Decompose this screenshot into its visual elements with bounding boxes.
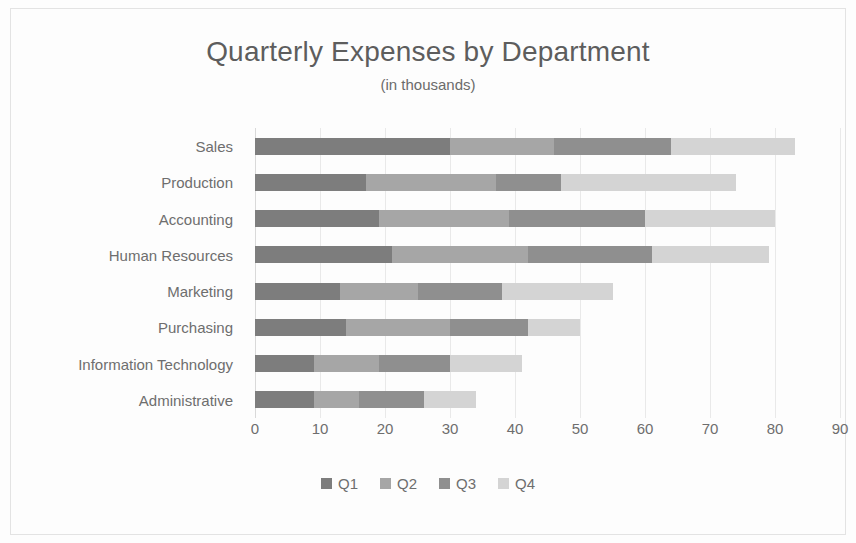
category-label: Marketing <box>167 284 233 299</box>
chart-legend: Q1Q2Q3Q4 <box>0 476 856 491</box>
x-tick-label: 60 <box>637 420 654 437</box>
gridline <box>775 128 776 418</box>
bar-segment-q2[interactable] <box>366 174 496 191</box>
x-tick-label: 90 <box>832 420 849 437</box>
bar-segment-q3[interactable] <box>379 355 451 372</box>
legend-item-q1[interactable]: Q1 <box>321 476 358 491</box>
bar-row[interactable] <box>255 319 840 336</box>
x-tick-label: 40 <box>507 420 524 437</box>
bar-segment-q2[interactable] <box>392 246 529 263</box>
x-tick-label: 80 <box>767 420 784 437</box>
bar-segment-q4[interactable] <box>528 319 580 336</box>
plot-area <box>255 128 840 418</box>
x-tick-label: 10 <box>312 420 329 437</box>
legend-swatch-icon <box>380 478 391 489</box>
bar-segment-q1[interactable] <box>255 391 314 408</box>
bar-segment-q4[interactable] <box>502 283 613 300</box>
bar-row[interactable] <box>255 174 840 191</box>
gridline <box>515 128 516 418</box>
gridline <box>450 128 451 418</box>
gridline <box>580 128 581 418</box>
bar-row[interactable] <box>255 138 840 155</box>
category-label: Accounting <box>159 212 233 227</box>
legend-item-q3[interactable]: Q3 <box>439 476 476 491</box>
category-label: Administrative <box>139 393 233 408</box>
legend-label: Q1 <box>338 476 358 491</box>
gridline <box>710 128 711 418</box>
y-axis-line <box>255 128 256 418</box>
gridline <box>320 128 321 418</box>
bar-row[interactable] <box>255 355 840 372</box>
gridline <box>385 128 386 418</box>
bar-row[interactable] <box>255 391 840 408</box>
category-label: Sales <box>195 139 233 154</box>
bar-segment-q1[interactable] <box>255 319 346 336</box>
x-tick-label: 70 <box>702 420 719 437</box>
bar-segment-q4[interactable] <box>645 210 775 227</box>
chart-container: Quarterly Expenses by Department (in tho… <box>0 0 856 543</box>
bar-row[interactable] <box>255 246 840 263</box>
bar-segment-q1[interactable] <box>255 283 340 300</box>
legend-swatch-icon <box>498 478 509 489</box>
bar-segment-q2[interactable] <box>450 138 554 155</box>
bar-segment-q4[interactable] <box>671 138 795 155</box>
legend-label: Q3 <box>456 476 476 491</box>
legend-item-q2[interactable]: Q2 <box>380 476 417 491</box>
category-label: Production <box>161 175 233 190</box>
bar-segment-q1[interactable] <box>255 355 314 372</box>
bar-segment-q1[interactable] <box>255 174 366 191</box>
bar-segment-q2[interactable] <box>314 391 360 408</box>
bar-segment-q3[interactable] <box>509 210 646 227</box>
legend-label: Q2 <box>397 476 417 491</box>
bar-segment-q3[interactable] <box>528 246 652 263</box>
bar-segment-q4[interactable] <box>450 355 522 372</box>
bar-row[interactable] <box>255 283 840 300</box>
bar-segment-q3[interactable] <box>418 283 503 300</box>
x-axis-tick-labels: 0102030405060708090 <box>255 420 840 444</box>
bar-segment-q2[interactable] <box>379 210 509 227</box>
y-axis-category-labels: SalesProductionAccountingHuman Resources… <box>0 128 245 418</box>
bar-segment-q2[interactable] <box>340 283 418 300</box>
bar-segment-q1[interactable] <box>255 138 450 155</box>
bar-row[interactable] <box>255 210 840 227</box>
x-tick-label: 30 <box>442 420 459 437</box>
bar-segment-q3[interactable] <box>554 138 671 155</box>
category-label: Information Technology <box>78 357 233 372</box>
bar-segment-q4[interactable] <box>424 391 476 408</box>
bar-segment-q4[interactable] <box>652 246 769 263</box>
x-tick-label: 50 <box>572 420 589 437</box>
bar-segment-q2[interactable] <box>346 319 450 336</box>
chart-title: Quarterly Expenses by Department <box>0 36 856 68</box>
bar-segment-q1[interactable] <box>255 210 379 227</box>
x-tick-label: 20 <box>377 420 394 437</box>
legend-label: Q4 <box>515 476 535 491</box>
bar-segment-q4[interactable] <box>561 174 737 191</box>
bar-segment-q3[interactable] <box>450 319 528 336</box>
gridline <box>840 128 841 418</box>
bar-segment-q3[interactable] <box>496 174 561 191</box>
bar-segment-q2[interactable] <box>314 355 379 372</box>
x-tick-label: 0 <box>251 420 259 437</box>
category-label: Human Resources <box>109 248 233 263</box>
gridline <box>645 128 646 418</box>
legend-swatch-icon <box>321 478 332 489</box>
bar-segment-q3[interactable] <box>359 391 424 408</box>
chart-subtitle: (in thousands) <box>0 76 856 93</box>
category-label: Purchasing <box>158 320 233 335</box>
legend-swatch-icon <box>439 478 450 489</box>
bar-segment-q1[interactable] <box>255 246 392 263</box>
legend-item-q4[interactable]: Q4 <box>498 476 535 491</box>
